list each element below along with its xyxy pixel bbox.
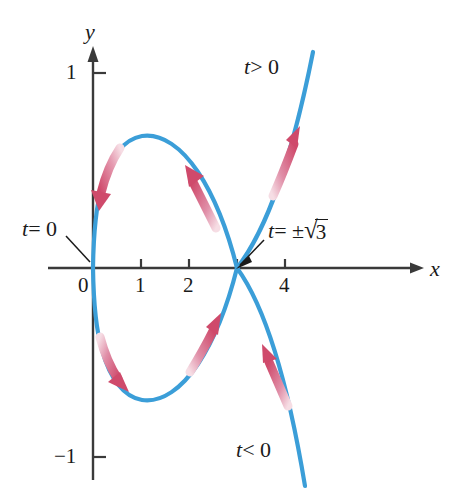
annotation-t-positive-op: > 0 xyxy=(250,54,279,79)
y-tick-label-minus1: −1 xyxy=(54,444,76,469)
annotation-t-sqrt3-op: = ± xyxy=(274,218,304,243)
x-tick-label-0: 0 xyxy=(78,273,89,298)
y-axis-arrowhead xyxy=(88,46,99,62)
annotation-t-sqrt3-radicand: 3 xyxy=(315,219,329,244)
arrow-lower-mid xyxy=(190,313,221,372)
annotation-t-negative-op: < 0 xyxy=(242,437,271,462)
arrow-upper-right-branch xyxy=(273,126,300,196)
x-tick-label-2: 2 xyxy=(183,273,194,298)
leader-line-t-sqrt3 xyxy=(236,240,264,269)
annotation-t-negative: t< 0 xyxy=(236,437,271,463)
x-tick-label-1: 1 xyxy=(135,273,146,298)
x-axis-label: x xyxy=(430,256,440,282)
annotation-t-positive: t> 0 xyxy=(244,54,279,80)
annotation-t-zero: t= 0 xyxy=(22,216,57,242)
leader-line-t-zero xyxy=(66,236,90,262)
annotation-t-sqrt3: t= ±√3 xyxy=(268,216,328,244)
y-axis-label: y xyxy=(85,19,95,45)
arrow-upper-left xyxy=(91,148,120,211)
arrow-lower-left xyxy=(100,337,129,392)
annotation-t-sqrt3-radical: √3 xyxy=(304,216,328,244)
x-axis-arrowhead xyxy=(410,263,424,274)
y-tick-label-1: 1 xyxy=(66,60,77,85)
annotation-t-zero-op: = 0 xyxy=(28,216,57,241)
x-tick-label-4: 4 xyxy=(279,273,290,298)
